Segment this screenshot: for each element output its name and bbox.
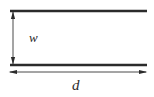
width-arrowhead-down-icon bbox=[11, 57, 15, 65]
width-arrowhead-up-icon bbox=[11, 12, 15, 20]
length-arrowhead-left-icon bbox=[9, 70, 17, 74]
figure-canvas: w d bbox=[0, 0, 154, 97]
length-dimension-label: d bbox=[72, 78, 80, 93]
length-arrowhead-right-icon bbox=[139, 70, 147, 74]
width-dimension-label: w bbox=[29, 31, 38, 44]
